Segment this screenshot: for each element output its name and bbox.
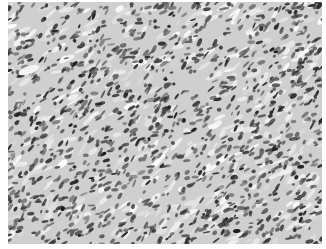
histology-image [8, 2, 322, 244]
tissue-texture [8, 2, 322, 244]
